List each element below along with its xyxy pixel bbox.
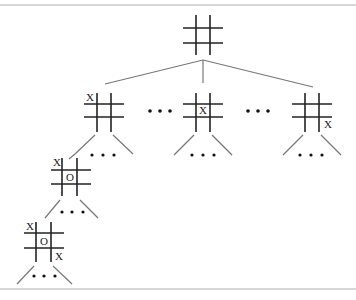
- game-tree-diagram: X X X: [0, 0, 356, 300]
- mark-x: X: [86, 91, 94, 103]
- mark-x: X: [53, 156, 61, 168]
- level3-fan: [17, 266, 72, 284]
- level2-fan: [45, 200, 98, 218]
- mark-o: O: [66, 171, 74, 183]
- mark-x: X: [55, 250, 63, 262]
- root-board: [183, 15, 223, 55]
- sibling-ellipsis-2: [246, 109, 270, 113]
- edge-l1-l2: [69, 154, 75, 159]
- sibling-ellipsis-1: [148, 109, 172, 113]
- mark-x: X: [26, 220, 34, 232]
- root-edges: [105, 60, 313, 87]
- mark-o: O: [40, 235, 48, 247]
- level1-right-fan: [283, 135, 341, 157]
- mark-x: X: [324, 118, 332, 130]
- level1-middle-fan: [174, 135, 232, 157]
- mark-x: X: [199, 104, 207, 116]
- level1-left-fan: [75, 135, 133, 157]
